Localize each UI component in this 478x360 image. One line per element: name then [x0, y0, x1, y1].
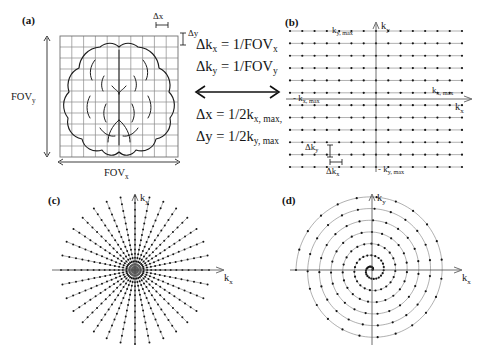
kspace-sample — [193, 281, 195, 283]
kspace-sample — [399, 79, 401, 81]
kspace-sample — [159, 274, 161, 276]
kspace-sample — [326, 92, 328, 94]
kspace-sample — [361, 232, 363, 234]
kspace-sample — [148, 302, 150, 304]
kspace-sample — [301, 154, 303, 156]
kspace-sample — [363, 116, 365, 118]
kspace-sample — [387, 42, 389, 44]
kspace-sample — [75, 257, 77, 259]
kspace-sample — [184, 248, 186, 250]
kspace-sample — [148, 342, 150, 344]
panel-d-label: (d) — [282, 194, 296, 207]
equation-line-2: Δky = 1/FOVy — [196, 58, 278, 76]
kspace-sample — [412, 129, 414, 131]
kspace-sample — [390, 237, 392, 239]
kspace-sample — [436, 55, 438, 57]
kspace-sample — [148, 290, 150, 292]
kspace-sample — [115, 261, 117, 263]
kspace-sample — [100, 303, 102, 305]
kspace-sample — [181, 316, 183, 318]
kspace-sample — [87, 222, 89, 224]
fov-y-label: FOVy — [11, 91, 36, 105]
kspace-sample — [122, 271, 124, 273]
kspace-sample — [81, 279, 83, 281]
kspace-sample — [159, 264, 161, 266]
kspace-sample — [146, 241, 148, 243]
kspace-sample — [184, 290, 186, 292]
kspace-sample — [146, 297, 148, 299]
kspace-sample — [369, 289, 371, 291]
kspace-sample — [363, 129, 365, 131]
kspace-sample — [392, 321, 394, 323]
kspace-sample — [356, 280, 358, 282]
kspace-sample — [364, 287, 366, 289]
brain-sulcus-6 — [119, 86, 126, 94]
kspace-sample — [128, 239, 130, 241]
kspace-sample — [127, 259, 129, 261]
kspace-sample — [403, 280, 405, 282]
kspace-sample — [95, 295, 97, 297]
kspace-sample — [159, 294, 161, 296]
kspace-sample — [148, 236, 150, 238]
kspace-sample — [175, 331, 177, 333]
kspace-sample — [167, 283, 169, 285]
kspace-sample — [108, 230, 110, 232]
kspace-sample — [122, 328, 124, 330]
kspace-sample — [187, 279, 189, 281]
kspace-sample — [412, 42, 414, 44]
kspace-sample — [162, 257, 164, 259]
kspace-sample — [136, 257, 138, 259]
kspace-sample — [151, 294, 153, 296]
kspace-sample — [175, 261, 177, 263]
kspace-sample — [66, 297, 68, 299]
kspace-sample — [119, 284, 121, 286]
kspace-sample — [424, 104, 426, 106]
kspace-sample — [114, 265, 116, 267]
kspace-sample — [152, 251, 154, 253]
kspace-sample — [139, 258, 141, 260]
kspace-sample — [143, 282, 145, 284]
kspace-sample — [109, 264, 111, 266]
kspace-sample — [68, 256, 70, 258]
kspace-sample — [125, 315, 127, 317]
kspace-sample — [139, 294, 141, 296]
kspace-sample — [180, 260, 182, 262]
kspace-sample — [424, 30, 426, 32]
kspace-sample — [124, 276, 126, 278]
kspace-sample — [157, 279, 159, 281]
kspace-sample — [350, 166, 352, 168]
kspace-sample — [327, 318, 329, 320]
kspace-sample — [121, 203, 123, 205]
kspace-sample — [301, 116, 303, 118]
kspace-sample — [136, 281, 138, 283]
kspace-sample — [179, 239, 181, 241]
kspace-sample — [449, 116, 451, 118]
kspace-sample — [129, 258, 131, 260]
d-kx-axis-label: kx — [462, 272, 471, 286]
kspace-sample — [126, 228, 128, 230]
kspace-sample — [377, 244, 379, 246]
kspace-sample — [387, 55, 389, 57]
kspace-sample — [362, 256, 364, 258]
kspace-sample — [154, 299, 156, 301]
kspace-sample — [147, 278, 149, 280]
kspace-sample — [147, 260, 149, 262]
kspace-sample — [111, 303, 113, 305]
b-ky-max-label: ky, max — [332, 25, 354, 36]
kspace-sample — [356, 246, 358, 248]
kspace-sample — [350, 55, 352, 57]
delta-x-bracket — [156, 22, 168, 28]
kspace-sample — [139, 280, 141, 282]
kspace-sample — [146, 328, 148, 330]
kspace-sample — [141, 234, 143, 236]
kspace-sample — [109, 286, 111, 288]
radial-spoke — [83, 218, 135, 270]
kspace-sample — [109, 274, 111, 276]
kspace-sample — [190, 246, 192, 248]
kspace-sample — [424, 116, 426, 118]
kspace-sample — [125, 260, 127, 262]
kspace-sample — [101, 283, 103, 285]
kspace-sample — [178, 251, 180, 253]
kspace-sample — [397, 228, 399, 230]
kspace-sample — [190, 232, 192, 234]
